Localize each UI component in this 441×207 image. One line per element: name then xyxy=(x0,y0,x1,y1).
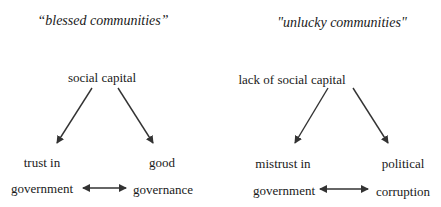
arrow-social-capital-to-good-governance xyxy=(118,88,153,143)
arrow-lack-capital-to-corruption xyxy=(353,88,388,143)
arrow-lack-capital-to-mistrust xyxy=(295,88,328,143)
diagram-canvas: “blessed communities” social capital tru… xyxy=(0,0,441,207)
arrows-layer xyxy=(0,0,441,207)
arrow-social-capital-to-trust xyxy=(57,88,92,143)
